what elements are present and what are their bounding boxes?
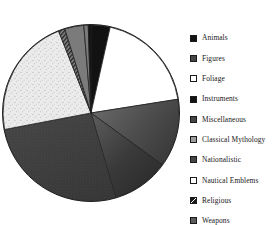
legend-label: Instruments: [202, 95, 238, 102]
legend-label: Figures: [202, 55, 225, 62]
legend-item[interactable]: Instruments: [182, 89, 277, 109]
legend-swatch-icon: [190, 75, 197, 82]
pie-plot-area: [0, 0, 182, 225]
legend-swatch-icon: [190, 136, 197, 143]
legend-swatch-icon: [190, 197, 197, 204]
legend-item[interactable]: Nautical Emblems: [182, 170, 277, 190]
legend-label: Weapons: [202, 217, 230, 224]
legend-label: Animals: [202, 34, 228, 41]
legend-swatch-icon: [190, 96, 197, 103]
legend-item[interactable]: Religious: [182, 190, 277, 210]
legend-item[interactable]: Nationalistic: [182, 150, 277, 170]
legend-swatch-icon: [190, 217, 197, 224]
legend-swatch-icon: [190, 55, 197, 62]
legend-item[interactable]: Miscellaneous: [182, 109, 277, 129]
legend-item[interactable]: Figures: [182, 48, 277, 68]
legend-swatch-icon: [190, 35, 197, 42]
legend-label: Nautical Emblems: [202, 177, 258, 184]
legend-item[interactable]: Animals: [182, 28, 277, 48]
legend-label: Religious: [202, 197, 231, 204]
legend-item[interactable]: Weapons: [182, 211, 277, 225]
legend-swatch-icon: [190, 156, 197, 163]
legend-swatch-icon: [190, 177, 197, 184]
legend-label: Nationalistic: [202, 156, 241, 163]
legend-label: Classical Mythology: [202, 136, 265, 143]
chart-legend: AnimalsFiguresFoliageInstrumentsMiscella…: [182, 0, 277, 225]
legend-swatch-icon: [190, 116, 197, 123]
legend-label: Miscellaneous: [202, 116, 246, 123]
pie-chart-figure: AnimalsFiguresFoliageInstrumentsMiscella…: [0, 0, 277, 225]
legend-item[interactable]: Foliage: [182, 69, 277, 89]
pie-svg: [2, 11, 180, 216]
pie-slices-group: [3, 25, 179, 201]
legend-item[interactable]: Classical Mythology: [182, 129, 277, 149]
legend-label: Foliage: [202, 75, 225, 82]
